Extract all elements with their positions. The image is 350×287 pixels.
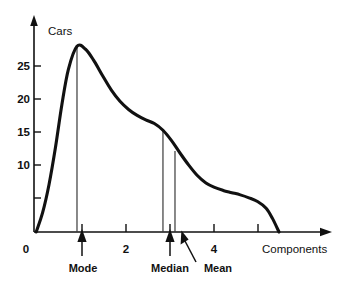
y-tick-label-10: 10 bbox=[17, 159, 30, 171]
y-axis-title: Cars bbox=[48, 25, 73, 37]
x-axis-title: Components bbox=[262, 243, 327, 255]
annotation-labels-group: Mode Median Mean bbox=[69, 262, 233, 274]
y-axis-arrowhead bbox=[30, 15, 38, 26]
y-tick-labels: 25 20 15 10 bbox=[17, 60, 30, 171]
annotation-label-mode: Mode bbox=[69, 262, 98, 274]
x-tick-label-2: 2 bbox=[123, 243, 129, 255]
y-tick-label-15: 15 bbox=[17, 126, 30, 138]
median-arrow-head bbox=[165, 229, 174, 242]
chart-canvas: 25 20 15 10 0 2 4 Cars Components bbox=[0, 0, 350, 287]
mode-arrow-head bbox=[77, 229, 86, 242]
distribution-curve bbox=[36, 45, 279, 232]
mean-arrow-shaft bbox=[185, 241, 196, 262]
marker-lines-group bbox=[77, 46, 175, 232]
y-tick-group bbox=[34, 66, 41, 198]
x-tick-label-0: 0 bbox=[23, 243, 29, 255]
y-tick-label-25: 25 bbox=[17, 60, 30, 72]
y-tick-label-20: 20 bbox=[17, 93, 30, 105]
distribution-chart-figure: 25 20 15 10 0 2 4 Cars Components bbox=[0, 0, 350, 287]
annotation-arrows-group bbox=[77, 229, 196, 262]
annotation-label-median: Median bbox=[151, 262, 189, 274]
x-tick-label-4: 4 bbox=[211, 243, 218, 255]
annotation-label-mean: Mean bbox=[204, 262, 232, 274]
x-axis-arrowhead bbox=[320, 228, 332, 236]
